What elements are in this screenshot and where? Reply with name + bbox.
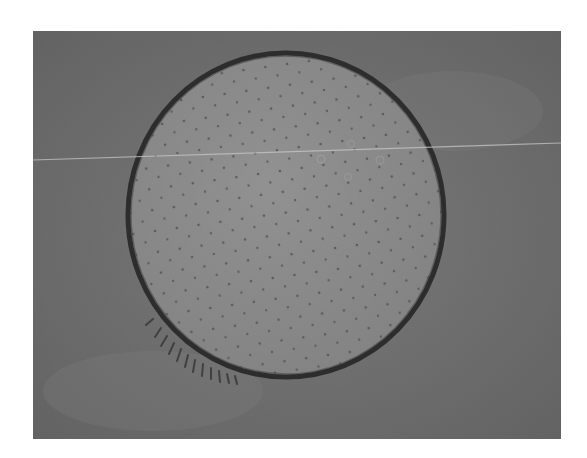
micrograph-image	[33, 31, 561, 439]
micrograph-svg	[33, 31, 561, 439]
